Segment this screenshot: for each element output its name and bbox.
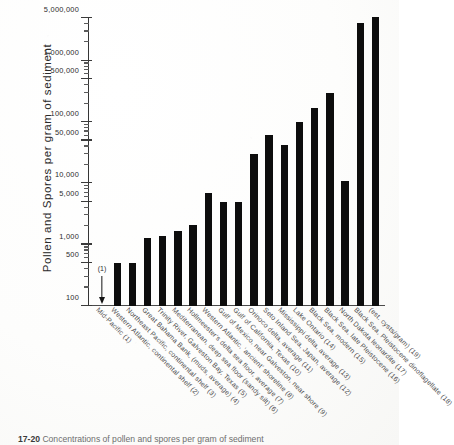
figure-caption: 17-20 Concentrations of pollen and spore… <box>18 434 390 444</box>
bar <box>357 23 364 306</box>
y-tick-label: 100,000 <box>51 109 79 118</box>
y-tick-minor <box>84 124 89 125</box>
y-tick-major <box>81 243 92 244</box>
y-tick-minor <box>84 103 89 104</box>
y-tick-minor <box>84 225 89 226</box>
bar <box>265 135 272 306</box>
y-tick-major <box>81 262 92 263</box>
bar <box>220 202 227 306</box>
y-tick-major <box>81 139 92 140</box>
y-tick-label: 100 <box>66 293 79 302</box>
y-tick-minor <box>84 188 89 189</box>
bar <box>372 17 379 306</box>
y-tick-minor <box>84 73 89 74</box>
y-tick-minor <box>84 214 89 215</box>
y-tick-minor <box>84 130 89 131</box>
y-tick-label: 5,000,000 <box>44 5 79 14</box>
y-tick-minor <box>84 145 89 146</box>
y-tick-minor <box>84 66 89 67</box>
bar <box>326 93 333 306</box>
y-tick-label: 500,000 <box>51 66 79 75</box>
bar <box>205 193 212 306</box>
figure-number: 17-20 <box>18 434 40 444</box>
y-tick-label: 1,000 <box>59 231 79 240</box>
y-tick-minor <box>84 249 89 250</box>
bar <box>311 108 318 306</box>
y-tick-label: 1,000,000 <box>44 47 79 56</box>
y-tick-minor <box>84 23 89 24</box>
y-tick-minor <box>84 62 89 63</box>
y-tick-minor <box>84 127 89 128</box>
bar <box>189 225 196 306</box>
y-tick-minor <box>84 69 89 70</box>
y-tick-minor <box>84 192 89 193</box>
bar <box>144 238 151 306</box>
y-tick-minor <box>84 268 89 269</box>
y-tick-label: 5,000 <box>59 188 79 197</box>
bar <box>341 181 348 306</box>
y-tick-label: 10,000 <box>55 170 79 179</box>
y-tick-label: 50,000 <box>55 127 79 136</box>
bar <box>159 236 166 306</box>
down-arrow-icon <box>101 276 102 298</box>
below-scale-arrow-label: (1) <box>98 265 107 272</box>
y-tick-minor <box>84 185 89 186</box>
y-tick-minor <box>84 135 89 136</box>
figure-caption-text: Concentrations of pollen and spores per … <box>42 434 263 444</box>
y-tick-minor <box>84 41 89 42</box>
y-tick-minor <box>84 84 89 85</box>
bar <box>250 154 257 306</box>
y-tick-major <box>81 121 92 122</box>
y-tick-minor <box>84 257 89 258</box>
y-tick-major <box>81 78 92 79</box>
plot-area: 1005001,0005,00010,00050,000100,000500,0… <box>88 18 385 306</box>
x-axis-category-labels: Mid-Pacific (1)Western Atlantic, contine… <box>88 306 385 431</box>
y-tick-major <box>81 60 92 61</box>
bar <box>235 202 242 306</box>
y-tick-label: 500 <box>66 250 79 259</box>
y-tick-minor <box>84 253 89 254</box>
y-tick-major <box>81 182 92 183</box>
y-tick-major <box>81 201 92 202</box>
y-tick-minor <box>84 207 89 208</box>
y-tick-major <box>81 17 92 18</box>
y-tick-minor <box>84 196 89 197</box>
y-tick-minor <box>84 30 89 31</box>
y-tick-minor <box>84 246 89 247</box>
y-tick-minor <box>84 164 89 165</box>
bar <box>174 231 181 306</box>
bar <box>281 145 288 306</box>
y-tick-minor <box>84 286 89 287</box>
y-tick-minor <box>84 276 89 277</box>
bar <box>296 122 303 306</box>
down-arrow-head-icon <box>99 297 105 304</box>
bar <box>129 263 136 306</box>
y-tick-minor <box>84 153 89 154</box>
y-tick-minor <box>84 92 89 93</box>
below-scale-arrow-marker: (1) <box>98 246 105 306</box>
bar <box>114 263 121 306</box>
